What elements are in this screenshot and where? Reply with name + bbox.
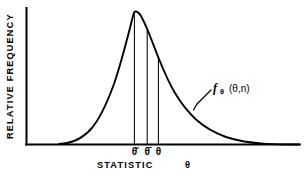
curve-label-symbol: f [213,81,218,95]
y-axis-label: RELATIVE FREQUENCY [5,13,15,139]
curve-label-arguments: (θ,n) [229,83,250,94]
x-axis-label-symbol: θ [185,160,191,170]
distribution-figure: RELATIVE FREQUENCY STATISTIC θ θ̌ θ̄ θ f… [0,0,304,175]
mean-marker-label: θ̄ [144,146,151,157]
density-curve [59,12,299,145]
curve-label-leader-line [194,90,212,110]
x-axis-label: STATISTIC [97,160,153,170]
curve-label-subscript: θ [220,87,224,96]
mode-marker-label: θ̌ [132,146,139,157]
figure-container: RELATIVE FREQUENCY STATISTIC θ θ̌ θ̄ θ f… [0,0,304,175]
median-marker-label: θ [156,146,161,157]
